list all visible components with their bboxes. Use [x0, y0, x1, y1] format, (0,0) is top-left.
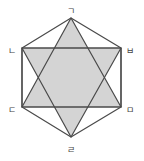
vertex-label-d: ㄷ [8, 105, 16, 115]
vertex-label-n: ㄴ [8, 46, 16, 56]
vertex-label-b: ㅂ [126, 46, 134, 56]
vertex-label-r: ㄹ [67, 145, 75, 155]
vertex-label-m: ㅁ [126, 105, 134, 115]
hexagram-diagram: ㄱㄴㄷㄹㅁㅂ [0, 0, 144, 161]
shaded-region [22, 18, 121, 137]
vertex-label-g: ㄱ [67, 6, 75, 16]
